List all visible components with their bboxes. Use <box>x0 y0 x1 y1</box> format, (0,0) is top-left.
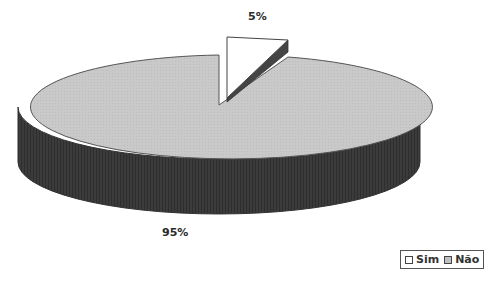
data-label-nao: 95% <box>162 226 188 239</box>
legend-swatch-nao <box>444 256 452 264</box>
legend-item-sim: Sim <box>405 253 439 266</box>
legend-item-nao: Não <box>444 253 479 266</box>
legend-label-sim: Sim <box>416 253 439 266</box>
pie-chart <box>0 0 496 291</box>
legend-label-nao: Não <box>455 253 479 266</box>
chart-legend: Sim Não <box>400 250 484 269</box>
legend-swatch-sim <box>405 256 413 264</box>
data-label-sim: 5% <box>248 10 267 23</box>
